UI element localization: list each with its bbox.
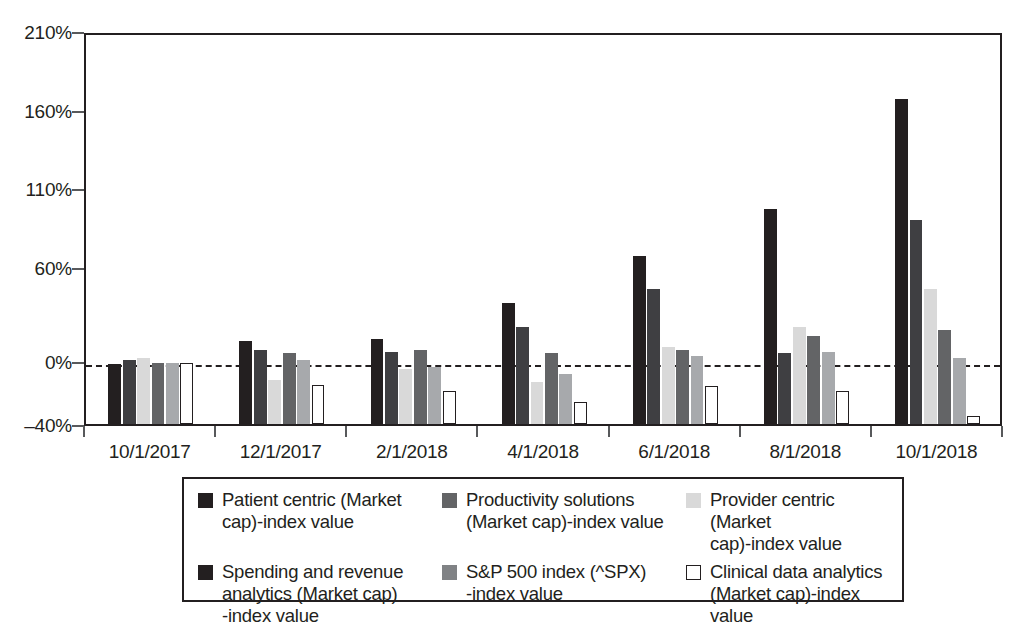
legend-item-label: Provider centric (Marketcap)-index value [710,489,892,555]
legend-item[interactable]: Provider centric (Marketcap)-index value [686,489,892,555]
legend-item-label: Spending and revenueanalytics (Market ca… [222,561,403,627]
bar [545,353,558,424]
bar [559,374,572,424]
bar [967,416,980,424]
x-axis-tick-label: 6/1/2018 [638,441,710,463]
bar [399,369,412,424]
legend-item-label: S&P 500 index (^SPX)-index value [466,561,646,605]
bar [895,99,908,424]
bar [793,327,806,424]
legend-item[interactable]: Patient centric (Marketcap)-index value [198,489,442,555]
y-axis-tick-mark [72,362,84,364]
bar [705,386,718,424]
bar [108,364,121,424]
y-axis-tick-mark [72,189,84,191]
y-axis-tick-mark [72,268,84,270]
bar-group [742,35,873,424]
bar [633,256,646,424]
bar-group [873,35,1004,424]
bar [691,356,704,424]
legend-item[interactable]: Spending and revenueanalytics (Market ca… [198,561,442,627]
legend-swatch-icon [198,565,213,580]
bar [297,360,310,424]
bar-group [86,35,217,424]
x-axis-tick-label: 8/1/2018 [770,441,842,463]
bar-chart: –40%0%60%110%160%210% 10/1/201712/1/2017… [0,0,1021,628]
y-axis-tick-label: 0% [2,352,72,374]
bar [836,391,849,424]
bar [443,391,456,424]
legend-item-label: Productivity solutions(Market cap)-index… [466,489,664,533]
legend-swatch-icon [686,565,701,580]
bar [574,402,587,424]
x-axis-tick-mark [1001,426,1003,437]
bar [953,358,966,424]
y-axis-tick-label: –40% [2,415,72,437]
bar-group [348,35,479,424]
x-axis-tick-label: 10/1/2018 [896,441,978,463]
bar [268,380,281,424]
bar [531,382,544,424]
bar [676,350,689,424]
bar [137,358,150,424]
bar [371,339,384,424]
bar [283,353,296,424]
x-axis-tick-mark [214,426,216,437]
bar [152,363,165,424]
x-axis-tick-mark [739,426,741,437]
x-axis-tick-mark [608,426,610,437]
bar [662,347,675,424]
y-axis-tick-mark [72,111,84,113]
plot-area [84,33,1002,426]
bar [910,220,923,424]
x-axis-tick-label: 4/1/2018 [507,441,579,463]
x-axis-tick-label: 10/1/2017 [109,441,191,463]
bar-group [217,35,348,424]
bar [239,341,252,424]
y-axis-tick-label: 60% [2,258,72,280]
bar [312,385,325,424]
legend-swatch-icon [442,565,457,580]
legend-swatch-icon [442,493,457,508]
x-axis-tick-mark [870,426,872,437]
bar [778,353,791,424]
bar [254,350,267,424]
bar [180,363,193,424]
y-axis-tick-mark [72,32,84,34]
legend-item[interactable]: Clinical data analytics(Market cap)-inde… [686,561,892,627]
x-axis-tick-mark [345,426,347,437]
bar-group [479,35,610,424]
x-axis-tick-label: 12/1/2017 [240,441,322,463]
x-axis-tick-label: 2/1/2018 [376,441,448,463]
legend-item[interactable]: S&P 500 index (^SPX)-index value [442,561,686,627]
bar [502,303,515,424]
legend-swatch-icon [686,493,701,508]
legend-item-label: Clinical data analytics(Market cap)-inde… [710,561,892,627]
bar [414,350,427,424]
y-axis-tick-label: 210% [2,22,72,44]
y-axis-tick-label: 160% [2,101,72,123]
bar [166,363,179,424]
bar [647,289,660,424]
chart-legend: Patient centric (Marketcap)-index valueP… [182,477,904,602]
legend-item-label: Patient centric (Marketcap)-index value [222,489,401,533]
bar [924,289,937,424]
bar [428,367,441,424]
bar [764,209,777,424]
legend-swatch-icon [198,493,213,508]
bars-layer [86,35,1000,424]
x-axis-tick-mark [476,426,478,437]
x-axis-tick-mark [83,426,85,437]
bar [822,352,835,424]
legend-item[interactable]: Productivity solutions(Market cap)-index… [442,489,686,555]
bar [516,327,529,424]
bar [807,336,820,424]
y-axis-tick-label: 110% [2,179,72,201]
bar [938,330,951,424]
bar [123,360,136,424]
bar [385,352,398,424]
bar-group [611,35,742,424]
